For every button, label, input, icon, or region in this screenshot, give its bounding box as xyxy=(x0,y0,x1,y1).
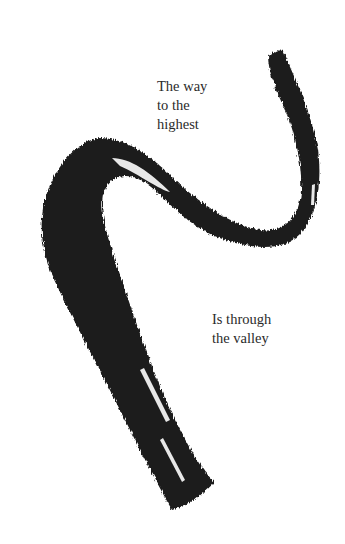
artwork-canvas: The way to the highest Is through the va… xyxy=(0,0,345,544)
caption-bottom: Is through the valley xyxy=(212,310,271,348)
caption-top: The way to the highest xyxy=(157,77,207,134)
